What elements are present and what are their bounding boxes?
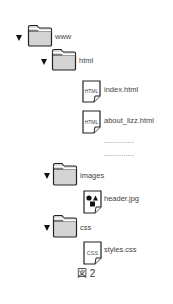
file-label-styles-css[interactable]: styles.css — [104, 246, 137, 254]
file-label-about-lizz-html[interactable]: about_lizz.html — [104, 117, 154, 125]
svg-text:HTML: HTML — [85, 119, 99, 125]
html-file-icon[interactable]: HTML — [82, 110, 102, 134]
folder-icon-css[interactable] — [52, 214, 78, 238]
folder-label-images[interactable]: images — [80, 172, 104, 180]
svg-text:CSS: CSS — [87, 250, 99, 256]
file-label-header-jpg[interactable]: header.jpg — [104, 195, 139, 203]
expand-triangle-icon-html[interactable] — [41, 59, 47, 65]
expand-triangle-icon-css[interactable] — [44, 225, 50, 231]
folder-label-css[interactable]: css — [80, 224, 91, 232]
folder-icon-images[interactable] — [52, 162, 78, 186]
file-label-index-html[interactable]: index.html — [104, 86, 138, 94]
ellipsis-row: .............. — [104, 150, 134, 157]
ellipsis-row: .............. — [104, 137, 134, 144]
css-file-icon[interactable]: CSS — [83, 241, 103, 265]
folder-label-www[interactable]: www — [55, 33, 71, 41]
folder-icon-www[interactable] — [27, 24, 53, 47]
expand-triangle-icon-www[interactable] — [16, 35, 22, 41]
svg-text:HTML: HTML — [85, 88, 99, 94]
image-file-icon[interactable] — [83, 190, 103, 214]
figure-caption: 図 2 — [77, 269, 95, 279]
html-file-icon[interactable]: HTML — [82, 80, 102, 103]
folder-icon-html[interactable] — [51, 48, 77, 71]
expand-triangle-icon-images[interactable] — [44, 173, 50, 179]
folder-label-html[interactable]: html — [79, 57, 93, 65]
